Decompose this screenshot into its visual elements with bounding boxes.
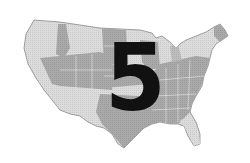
overlay-number: 5 (105, 38, 147, 120)
us-map-figure: 5 (0, 0, 250, 163)
